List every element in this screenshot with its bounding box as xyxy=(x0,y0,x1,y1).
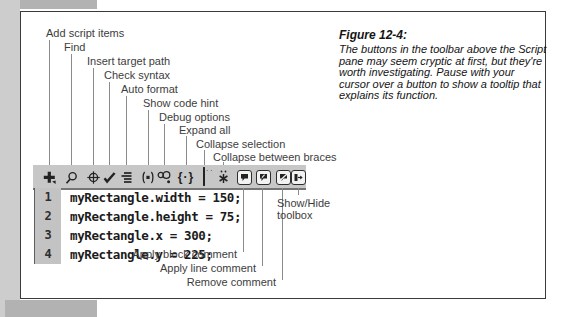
callout-add-script-items: Add script items xyxy=(46,27,124,39)
remove-comment-icon xyxy=(276,170,291,185)
figure-caption: Figure 12-4: The buttons in the toolbar … xyxy=(339,28,547,102)
callout-debug-options: Debug options xyxy=(159,111,230,123)
collapse-selection-button[interactable]: ·· xyxy=(196,169,212,185)
apply-block-comment-button[interactable] xyxy=(236,169,252,185)
apply-line-comment-button[interactable] xyxy=(255,169,271,185)
add-script-items-button[interactable] xyxy=(41,169,57,185)
page-bottom-band xyxy=(5,300,97,317)
debug-options-button[interactable] xyxy=(156,169,172,185)
callout-apply-line-comment: Apply line comment xyxy=(160,262,256,274)
callout-show-hide-toolbox: Show/Hide toolbox xyxy=(277,197,339,221)
insert-target-path-button[interactable] xyxy=(85,169,101,185)
line-number: 1 xyxy=(35,188,61,207)
page-margin-strip xyxy=(0,0,20,317)
collapse-braces-icon xyxy=(217,170,230,184)
figure-box: Add script items Find Insert target path… xyxy=(20,11,546,299)
callout-insert-target-path: Insert target path xyxy=(87,55,170,67)
expand-all-button[interactable]: {·} xyxy=(178,169,194,185)
figure-caption-title: Figure 12-4: xyxy=(339,28,547,42)
callout-show-code-hint: Show code hint xyxy=(143,97,218,109)
format-lines-icon xyxy=(120,171,133,184)
callout-line xyxy=(148,110,149,165)
toolbox-icon xyxy=(291,170,306,185)
callout-line xyxy=(49,40,50,165)
callout-apply-block-comment: Apply block comment xyxy=(132,248,237,260)
callout-line xyxy=(186,136,187,165)
callout-line xyxy=(298,188,299,195)
line-comment-icon xyxy=(256,170,271,185)
callout-line xyxy=(126,96,127,165)
callout-check-syntax: Check syntax xyxy=(104,69,170,81)
show-hide-toolbox-button[interactable] xyxy=(290,169,306,185)
callout-line xyxy=(262,188,263,266)
show-code-hint-button[interactable] xyxy=(140,169,156,185)
braces-icon: {·} xyxy=(178,171,194,183)
line-number: 4 xyxy=(35,245,61,264)
code-text: myRectangle.height = 75; xyxy=(70,209,241,224)
code-line[interactable]: 1 myRectangle.width = 150; xyxy=(35,188,317,207)
line-number: 3 xyxy=(35,226,61,245)
callout-line xyxy=(164,124,165,165)
checkmark-icon xyxy=(103,171,116,184)
code-line[interactable]: 3 myRectangle.x = 300; xyxy=(35,226,317,245)
figure-caption-body: The buttons in the toolbar above the Scr… xyxy=(339,44,547,102)
remove-comment-button[interactable] xyxy=(275,169,291,185)
page-top-band xyxy=(20,0,97,9)
code-text: myRectangle.x = 300; xyxy=(70,228,213,243)
code-text: myRectangle.width = 150; xyxy=(70,190,241,205)
callout-line xyxy=(71,54,72,165)
block-comment-icon xyxy=(237,170,252,185)
collapse-between-braces-button[interactable] xyxy=(215,169,231,185)
callout-remove-comment: Remove comment xyxy=(187,276,276,288)
line-number: 2 xyxy=(35,207,61,226)
callout-line xyxy=(204,150,205,165)
auto-format-button[interactable] xyxy=(118,169,134,185)
callout-expand-all: Expand all xyxy=(179,124,230,136)
callout-collapse-selection: Collapse selection xyxy=(196,138,285,150)
collapse-ticks: ·· xyxy=(206,169,215,173)
callout-line xyxy=(93,68,94,165)
code-line[interactable]: 2 myRectangle.height = 75; xyxy=(35,207,317,226)
callout-line xyxy=(243,188,244,252)
callout-collapse-between-braces: Collapse between braces xyxy=(213,151,337,163)
find-button[interactable] xyxy=(63,169,79,185)
actions-toolbar: {·} ·· xyxy=(33,165,306,190)
check-syntax-button[interactable] xyxy=(101,169,117,185)
callout-auto-format: Auto format xyxy=(121,83,178,95)
target-icon xyxy=(87,171,100,184)
collapse-selection-icon: ·· xyxy=(203,168,205,186)
book-page: Add script items Find Insert target path… xyxy=(0,0,567,317)
plus-icon xyxy=(43,171,56,184)
callout-find: Find xyxy=(64,41,85,53)
debug-icon xyxy=(157,170,171,184)
callout-line xyxy=(109,82,110,165)
magnifier-icon xyxy=(65,171,78,184)
code-hint-icon xyxy=(141,171,155,184)
